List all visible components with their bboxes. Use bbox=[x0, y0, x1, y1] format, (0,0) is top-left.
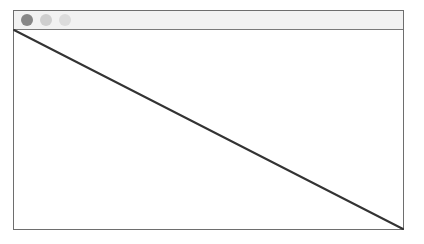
window-content bbox=[14, 30, 403, 229]
title-bar[interactable] bbox=[14, 11, 403, 30]
stage bbox=[0, 0, 424, 244]
browser-window bbox=[13, 10, 404, 230]
minimize-button-icon[interactable] bbox=[40, 14, 52, 26]
close-button-icon[interactable] bbox=[21, 14, 33, 26]
maximize-button-icon[interactable] bbox=[59, 14, 71, 26]
diagonal-line-icon bbox=[14, 30, 403, 229]
